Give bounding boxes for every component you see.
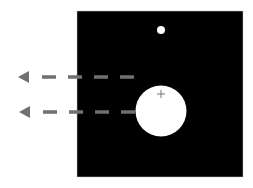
arrowhead-left-icon: [19, 106, 30, 118]
small-dot: [157, 26, 165, 34]
diagram-canvas: [0, 0, 253, 188]
arrowhead-left-icon: [18, 71, 29, 83]
